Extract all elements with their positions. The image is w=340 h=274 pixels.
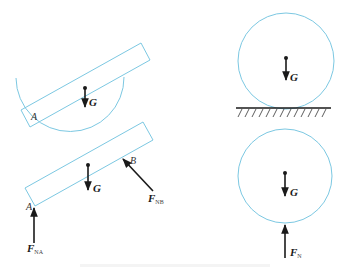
normal-force-b-arrow [123,159,153,191]
free-body-diagram-figure: A G B A G FNB FNA [0,0,340,274]
point-a-label: A [30,111,38,122]
normal-force-b-label: FNB [147,192,164,205]
gravity-label: G [93,182,101,194]
gravity-label: G [290,186,298,198]
panel-ball-on-ground: G [236,13,334,117]
panel-rod-free-body: B A G FNB FNA [25,122,164,255]
point-a-label: A [25,201,33,212]
panel-rod-in-bowl: A G [16,43,150,132]
normal-force-a-label: FNA [26,242,44,255]
rod-outline [21,43,150,127]
point-b-label: B [130,155,136,166]
panel-ball-free-body: G FN [238,129,332,259]
gravity-label: G [89,96,97,108]
ground-hatching [238,109,326,117]
normal-force-label: FN [289,246,302,259]
figure-caption-faint [80,264,270,267]
force-subscript: NA [34,249,43,255]
gravity-label: G [290,71,298,83]
force-subscript: N [297,253,302,259]
force-subscript: NB [155,199,163,205]
